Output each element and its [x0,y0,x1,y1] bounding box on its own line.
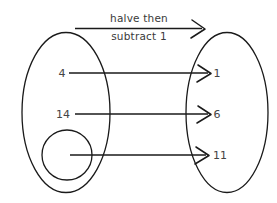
output-value-2: 6 [214,108,221,121]
rule-label-line-1: halve then [110,12,168,24]
output-value-3: 11 [213,149,227,162]
input-value-2: 14 [56,108,70,121]
input-value-1: 4 [59,67,66,80]
rule-label-line-2: subtract 1 [111,30,167,42]
output-set-ellipse [186,33,268,193]
output-value-1: 1 [214,67,221,80]
diagram-canvas: halve then subtract 1 4 14 1 6 11 [0,0,277,203]
mapping-diagram: halve then subtract 1 4 14 1 6 11 [0,0,277,203]
